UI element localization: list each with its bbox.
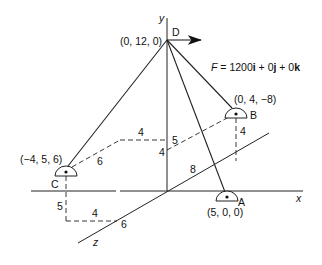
axes <box>31 18 303 243</box>
point-c-coords: (−4, 5, 6) <box>20 153 62 165</box>
dim-z-6: 6 <box>121 218 127 230</box>
cable-dc <box>68 40 167 166</box>
point-c-label: C <box>51 178 59 190</box>
cable-db <box>167 40 232 108</box>
pin-b-icon <box>234 112 237 115</box>
pin-c-icon <box>64 170 67 173</box>
dim-c-drop: 5 <box>57 200 63 212</box>
structure-diagram: y x z D (0, 12, 0) B (0, 4, −8) C (−4, 5… <box>0 0 322 265</box>
y-axis-label: y <box>158 12 165 24</box>
point-d-coords: (0, 12, 0) <box>120 35 162 47</box>
support-c <box>55 166 77 176</box>
dim-y-4: 4 <box>159 146 165 158</box>
force-eq-part: = 1200 <box>217 61 252 73</box>
c-to-kink-dashed <box>72 140 120 167</box>
dim-y-5: 5 <box>172 134 178 146</box>
unit-k: k <box>294 61 300 73</box>
dim-z-8: 8 <box>190 163 196 175</box>
dim-c-bottom: 4 <box>92 207 98 219</box>
point-b-coords: (0, 4, −8) <box>234 93 276 105</box>
z-axis <box>78 133 269 243</box>
dim-c-diag: 6 <box>97 155 103 167</box>
point-d-label: D <box>172 26 180 38</box>
force-eq-part: + 0 <box>256 61 274 73</box>
point-b-label: B <box>250 109 257 121</box>
dim-b-drop: 4 <box>240 125 246 137</box>
cables <box>68 40 232 192</box>
point-a-coords: (5, 0, 0) <box>207 206 243 218</box>
pin-a-icon <box>225 195 228 198</box>
z-axis-label: z <box>92 236 99 248</box>
dim-c-horizontal: 4 <box>138 126 144 138</box>
support-b <box>225 108 247 118</box>
x-axis-label: x <box>295 192 302 204</box>
force-equation: F = 1200i + 0j + 0k <box>211 61 300 73</box>
support-a <box>216 191 238 201</box>
force-eq-part: + 0 <box>276 61 294 73</box>
